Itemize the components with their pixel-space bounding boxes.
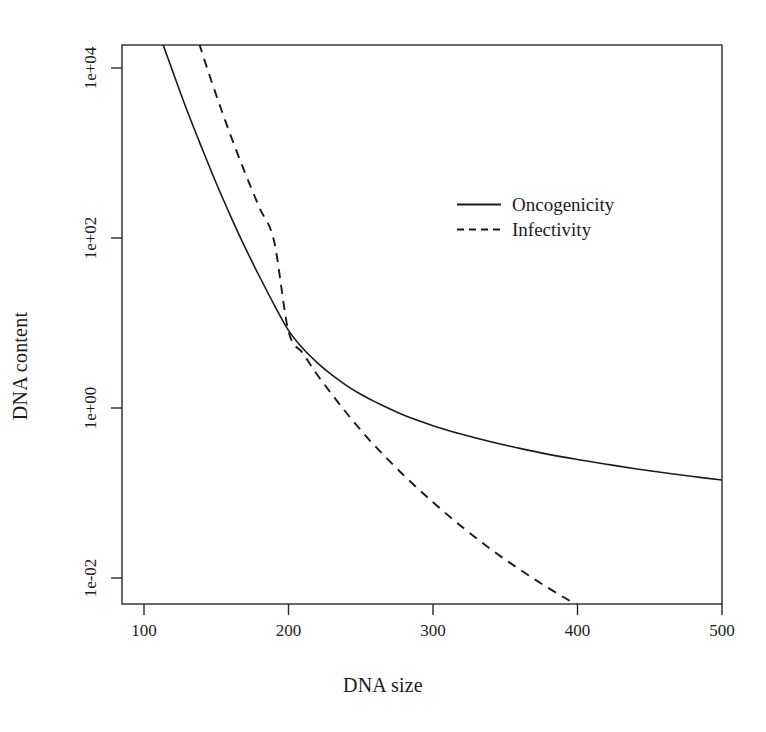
x-axis-ticks xyxy=(144,604,722,615)
x-tick-label: 300 xyxy=(420,621,446,641)
y-tick-label: 1e+02 xyxy=(80,203,102,273)
legend-label-oncogenicity: Oncogenicity xyxy=(512,192,614,217)
legend-key-solid-line xyxy=(455,192,503,217)
legend-item-oncogenicity: Oncogenicity xyxy=(455,192,665,217)
x-tick-label: 200 xyxy=(276,621,302,641)
chart-figure: 1002003004005001e-021e+001e+021e+04 DNA … xyxy=(0,0,766,732)
chart-legend: Oncogenicity Infectivity xyxy=(455,192,665,242)
y-tick-label: 1e+04 xyxy=(80,33,102,103)
y-axis-title: DNA content xyxy=(0,0,40,732)
data-series-group xyxy=(144,0,722,667)
x-tick-label: 400 xyxy=(565,621,591,641)
legend-key-dashed-line xyxy=(455,217,503,242)
y-tick-label: 1e+00 xyxy=(80,373,102,443)
legend-label-infectivity: Infectivity xyxy=(512,217,591,242)
x-tick-label: 100 xyxy=(131,621,157,641)
legend-item-infectivity: Infectivity xyxy=(455,217,665,242)
y-tick-label: 1e-02 xyxy=(80,543,102,613)
x-axis-title: DNA size xyxy=(0,674,766,697)
series-line-infectivity xyxy=(179,0,722,667)
plot-canvas xyxy=(0,0,766,732)
plot-frame xyxy=(122,45,722,604)
y-axis-ticks xyxy=(111,68,122,578)
x-tick-label: 500 xyxy=(709,621,735,641)
